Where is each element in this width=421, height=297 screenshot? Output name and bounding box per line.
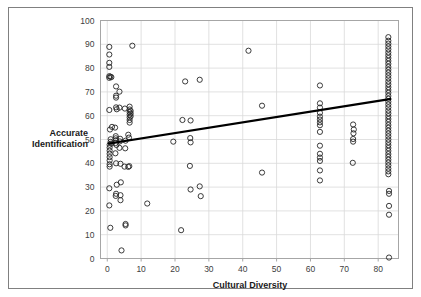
- data-point: [179, 228, 184, 233]
- plot-area-border: [101, 21, 399, 262]
- axis-titles: Cultural Diversity Accurate Identificati…: [32, 128, 287, 290]
- data-point: [317, 158, 322, 163]
- data-point: [351, 131, 356, 136]
- x-tick-label: 0: [105, 264, 110, 274]
- data-point: [188, 187, 193, 192]
- data-point: [188, 118, 193, 123]
- chart-canvas: 01020304050607080 0102030405060708090100…: [0, 0, 421, 297]
- data-point: [180, 117, 185, 122]
- x-tick-label: 30: [204, 264, 214, 274]
- data-point: [112, 125, 117, 130]
- x-tick-label: 20: [170, 264, 180, 274]
- data-point: [317, 129, 322, 134]
- trend-line: [109, 99, 390, 144]
- data-point: [386, 203, 391, 208]
- x-tick-label: 80: [373, 264, 383, 274]
- y-tick-label: 20: [85, 206, 95, 216]
- data-point: [119, 248, 124, 253]
- x-tick-label: 10: [136, 264, 146, 274]
- y-tick-label: 90: [85, 39, 95, 49]
- data-point: [118, 180, 123, 185]
- data-point: [183, 79, 188, 84]
- scatter-plot-figure: 01020304050607080 0102030405060708090100…: [0, 0, 421, 297]
- y-tick-label: 30: [85, 182, 95, 192]
- data-point: [198, 194, 203, 199]
- data-point: [113, 84, 118, 89]
- x-tick-label: 60: [306, 264, 316, 274]
- y-tick-label: 0: [90, 254, 95, 264]
- trendline: [109, 99, 390, 144]
- data-point: [118, 198, 123, 203]
- data-point: [113, 151, 118, 156]
- y-tick-label: 80: [85, 63, 95, 73]
- y-tick-label: 60: [85, 111, 95, 121]
- data-point: [386, 212, 391, 217]
- data-point: [259, 103, 264, 108]
- x-tick-label: 50: [272, 264, 282, 274]
- x-axis-title: Cultural Diversity: [213, 280, 288, 290]
- x-axis-tick-labels: 01020304050607080: [105, 264, 383, 274]
- data-point: [317, 143, 322, 148]
- y-tick-label: 10: [85, 230, 95, 240]
- y-tick-label: 100: [80, 16, 94, 26]
- data-point: [197, 77, 202, 82]
- data-point: [386, 255, 391, 260]
- data-point: [351, 122, 356, 127]
- data-point: [317, 83, 322, 88]
- data-point: [145, 201, 150, 206]
- x-tick-label: 70: [340, 264, 350, 274]
- data-point: [350, 160, 355, 165]
- data-point: [317, 168, 322, 173]
- data-point: [197, 184, 202, 189]
- data-point: [123, 146, 128, 151]
- data-point: [259, 170, 264, 175]
- y-tick-label: 70: [85, 87, 95, 97]
- y-axis-title-line-2: Identification: [32, 139, 88, 149]
- data-point: [117, 145, 122, 150]
- data-point: [187, 163, 192, 168]
- y-axis-title-line-1: Accurate: [49, 128, 88, 138]
- x-tick-label: 40: [238, 264, 248, 274]
- data-point: [246, 48, 251, 53]
- y-tick-label: 40: [85, 158, 95, 168]
- data-point: [108, 225, 113, 230]
- data-point: [317, 178, 322, 183]
